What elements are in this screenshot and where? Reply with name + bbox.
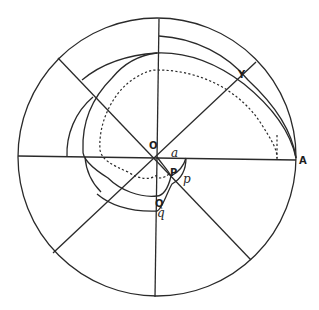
dotted-arc-at-P — [156, 174, 169, 178]
offset-spiral-left — [67, 97, 93, 157]
label-q: q — [157, 206, 165, 220]
label-A: A — [299, 155, 307, 166]
offset-spiral-upper-left — [82, 53, 157, 80]
offset-spiral-lower — [97, 158, 186, 211]
label-Y: Y — [237, 69, 246, 80]
dotted-spiral — [100, 70, 277, 178]
label-O: O — [149, 140, 158, 151]
label-P: P — [170, 167, 177, 178]
geometric-diagram: O a A Y P p Q q — [0, 0, 319, 310]
label-p: p — [183, 172, 191, 186]
label-a: a — [171, 146, 178, 160]
